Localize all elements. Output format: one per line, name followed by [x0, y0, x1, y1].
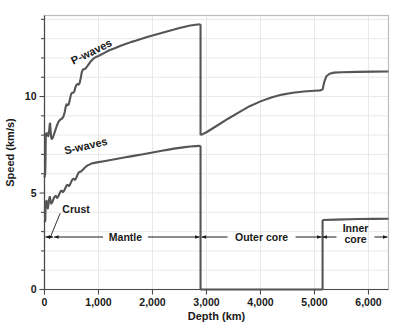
x-tick-label: 1,000 — [85, 296, 111, 308]
outer-core-label: Outer core — [235, 231, 288, 243]
inner-core-label-line2: core — [344, 233, 366, 245]
seismic-velocity-chart: 0510 01,0002,0003,0004,0005,0006,000 P-w… — [0, 0, 400, 327]
mantle-label: Mantle — [109, 231, 142, 243]
x-tick-label: 0 — [42, 296, 48, 308]
y-tick-label: 0 — [31, 283, 37, 295]
x-tick-label: 3,000 — [193, 296, 219, 308]
y-tick-label: 10 — [25, 90, 37, 102]
x-tick-label: 4,000 — [247, 296, 273, 308]
x-tick-label: 5,000 — [301, 296, 327, 308]
x-tick-label: 6,000 — [355, 296, 381, 308]
inner-core-label-line1: Inner — [343, 222, 369, 234]
curve-inner-core — [323, 219, 389, 220]
chart-svg: 0510 01,0002,0003,0004,0005,0006,000 P-w… — [0, 0, 400, 327]
crust-label: Crust — [62, 203, 90, 215]
x-axis-title: Depth (km) — [188, 310, 246, 322]
x-tick-label: 2,000 — [139, 296, 165, 308]
y-tick-label: 5 — [31, 187, 37, 199]
y-axis-title: Speed (km/s) — [4, 118, 16, 187]
